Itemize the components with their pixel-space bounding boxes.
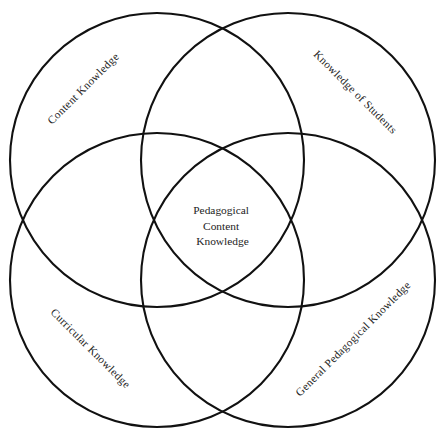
label-curricular-knowledge: Curricular Knowledge	[49, 306, 133, 390]
venn-diagram-canvas: Content Knowledge Knowledge of Students …	[0, 0, 445, 440]
circle-curricular-knowledge	[10, 133, 304, 427]
circle-content-knowledge	[10, 13, 304, 307]
label-knowledge-of-students: Knowledge of Students	[312, 48, 400, 136]
venn-diagram-figure: Content Knowledge Knowledge of Students …	[0, 0, 445, 440]
center-line-1: Pedagogical	[193, 204, 249, 216]
center-line-2: Content	[203, 220, 240, 232]
circle-knowledge-of-students	[141, 13, 435, 307]
label-content-knowledge: Content Knowledge	[45, 50, 121, 126]
circle-general-pedagogical-knowledge	[141, 133, 435, 427]
center-line-3: Knowledge	[196, 235, 249, 247]
label-pedagogical-content-knowledge: Pedagogical Content Knowledge	[193, 204, 252, 247]
